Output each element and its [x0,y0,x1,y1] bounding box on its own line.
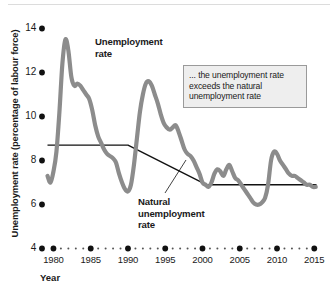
x-minor-dot [306,248,308,250]
x-minor-dot [209,248,211,250]
x-tick-dot [200,246,206,252]
x-minor-dot [194,248,196,250]
x-minor-dot [254,248,256,250]
x-minor-dot [105,248,107,250]
x-minor-dot [75,248,77,250]
y-tick-dot [39,202,45,208]
plot-area [0,0,336,289]
x-tick-dot [125,246,131,252]
x-tick-label: 2015 [294,254,334,265]
y-tick-label: 6 [14,198,36,209]
x-tick-label: 2005 [220,254,260,265]
x-minor-dot [142,248,144,250]
x-minor-dot [60,248,62,250]
x-tick-dot [274,246,280,252]
y-tick-dot [39,70,45,76]
y-tick-label: 10 [14,110,36,121]
x-minor-dot [67,248,69,250]
x-minor-dot [97,248,99,250]
y-tick-dot [39,26,45,32]
x-tick-label: 2000 [182,254,222,265]
x-tick-label: 1990 [108,254,148,265]
x-tick-dot [162,246,168,252]
x-minor-dot [134,248,136,250]
x-minor-dot [149,248,151,250]
x-minor-dot [261,248,263,250]
x-minor-dot [112,248,114,250]
x-tick-label: 1980 [33,254,73,265]
y-tick-label: 14 [14,22,36,33]
y-tick-label: 12 [14,66,36,77]
unemployment-rate-chart: Unemployment rate (percentage of labour … [0,0,336,289]
x-minor-dot [172,248,174,250]
x-minor-dot [82,248,84,250]
x-minor-dot [283,248,285,250]
y-tick-dot [39,246,45,252]
x-minor-dot [187,248,189,250]
x-tick-label: 1995 [145,254,185,265]
x-tick-label: 2010 [257,254,297,265]
x-tick-dot [311,246,317,252]
y-tick-dot [39,158,45,164]
x-minor-dot [224,248,226,250]
x-minor-dot [246,248,248,250]
x-minor-dot [269,248,271,250]
y-tick-dot [39,114,45,120]
x-tick-dot [51,246,57,252]
x-tick-dot [237,246,243,252]
x-minor-dot [231,248,233,250]
x-minor-dot [298,248,300,250]
y-axis-tick-dots [39,26,45,252]
x-minor-dot [291,248,293,250]
x-minor-dot [216,248,218,250]
unemployment-rate-line [47,39,315,205]
y-tick-label: 4 [14,242,36,253]
x-minor-dot [157,248,159,250]
x-tick-dot [88,246,94,252]
x-tick-label: 1985 [71,254,111,265]
x-axis-tick-dots [51,246,318,252]
x-minor-dot [179,248,181,250]
x-minor-dot [120,248,122,250]
y-tick-label: 8 [14,154,36,165]
